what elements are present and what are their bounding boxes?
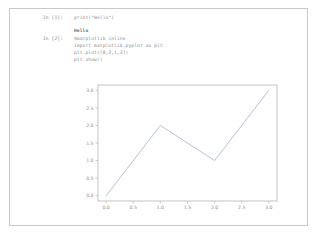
notebook-page: In [1]: print("Hello") Hello In [2]: %ma… (9, 8, 308, 226)
plot-data-line (106, 90, 269, 195)
y-tick-label: 1.0 (86, 158, 93, 163)
cell-1-input-prompt: In [1]: (43, 14, 73, 21)
y-tick-label: 2.0 (86, 123, 93, 128)
x-tick-label: 0.0 (102, 205, 109, 210)
matplotlib-figure: 0.00.51.01.52.02.53.00.00.51.01.52.02.53… (65, 67, 280, 219)
cell-1-source-code[interactable]: print("Hello") (74, 14, 114, 21)
y-tick-label: 0.0 (86, 193, 93, 198)
x-tick-label: 1.5 (184, 205, 191, 210)
x-tick-label: 2.0 (211, 205, 218, 210)
cell-2-figure-output: 0.00.51.01.52.02.53.00.00.51.01.52.02.53… (65, 67, 280, 219)
x-tick-label: 2.5 (238, 205, 245, 210)
y-tick-label: 3.0 (86, 88, 93, 93)
x-tick-label: 1.0 (157, 205, 164, 210)
cell-2-source-code[interactable]: %matplotlib inline import matplotlib.pyp… (74, 35, 163, 63)
cell-2-input-prompt: In [2]: (43, 35, 73, 42)
cell-1-output-text: Hello (74, 27, 88, 34)
y-tick-label: 2.5 (86, 106, 93, 111)
x-tick-label: 3.0 (265, 205, 272, 210)
y-tick-label: 1.5 (86, 141, 93, 146)
x-tick-label: 0.5 (130, 205, 137, 210)
y-tick-label: 0.5 (86, 176, 93, 181)
